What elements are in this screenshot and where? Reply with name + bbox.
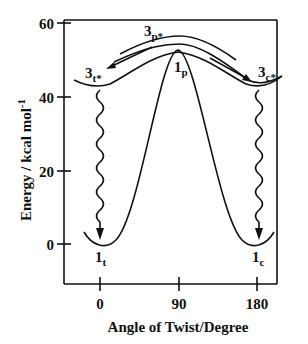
y-tick-label-60: 60 [39, 16, 54, 32]
energy-diagram: 60 40 20 0 0 90 180 Angle of Twist/Degre… [0, 0, 308, 344]
x-axis-title: Angle of Twist/Degree [108, 319, 249, 335]
x-tick-label-0: 0 [96, 296, 104, 312]
y-tick-label-20: 20 [39, 164, 54, 180]
label-1t: 1t [95, 249, 107, 268]
label-3t-star: 3t* [85, 65, 102, 84]
label-3c-star: 3c* [258, 64, 276, 83]
x-ticks: 0 90 180 [96, 277, 268, 312]
label-3p-star: 3p* [144, 23, 164, 42]
y-ticks: 60 40 20 0 [39, 16, 71, 253]
arrow-to-3c-icon [210, 58, 252, 82]
x-tick-label-180: 180 [246, 296, 269, 312]
label-1p: 1p [174, 59, 188, 78]
label-1c: 1c [252, 249, 265, 268]
y-tick-label-0: 0 [47, 237, 55, 253]
y-axis-title-main: Energy / kcal mol [18, 108, 34, 221]
wavy-arrow-left-icon [96, 90, 104, 240]
x-tick-label-90: 90 [172, 296, 187, 312]
y-axis-title: Energy / kcal mol-1 [15, 99, 34, 221]
y-axis-title-sup: -1 [15, 99, 27, 108]
svg-text:Energy / kcal mol-1: Energy / kcal mol-1 [15, 99, 34, 221]
triplet-curve-middle [114, 44, 282, 83]
y-tick-label-40: 40 [39, 90, 54, 106]
triplet-curve-upper [120, 36, 236, 60]
wavy-arrow-right-icon [255, 90, 263, 240]
